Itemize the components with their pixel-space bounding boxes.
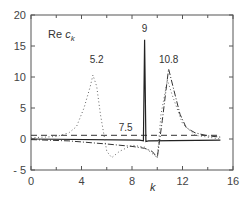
y-tick-label: 5 <box>20 102 26 114</box>
chart-svg: 0481216- 505101520 5.27.5910.8 Re ck k <box>0 0 247 197</box>
y-tick-label: 0 <box>20 133 26 145</box>
peak-label: 5.2 <box>90 54 104 65</box>
x-tick-label: 16 <box>227 175 239 187</box>
peak-annotations: 5.27.5910.8 <box>90 23 179 133</box>
chart-title: Re ck <box>48 28 76 43</box>
series-line-10.8 <box>31 69 220 158</box>
y-tick-label: - 5 <box>13 164 26 176</box>
x-axis-label: k <box>150 181 156 193</box>
series-line-5.2 <box>31 75 220 158</box>
x-tick-label: 12 <box>176 175 188 187</box>
y-tick-label: 15 <box>14 40 26 52</box>
peak-label: 10.8 <box>159 54 179 65</box>
y-tick-label: 20 <box>14 9 26 21</box>
peak-label: 7.5 <box>119 122 133 133</box>
y-tick-label: 10 <box>14 71 26 83</box>
x-tick-label: 8 <box>129 175 135 187</box>
data-series <box>31 40 220 158</box>
x-tick-label: 4 <box>78 175 84 187</box>
x-tick-label: 0 <box>28 175 34 187</box>
peak-label: 9 <box>142 23 148 34</box>
